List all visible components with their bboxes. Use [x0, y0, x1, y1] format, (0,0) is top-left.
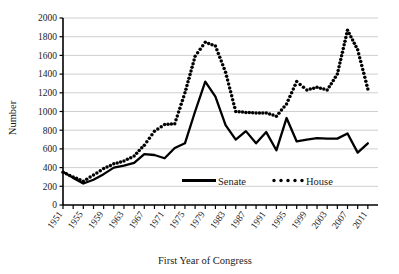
legend: Senate House	[182, 176, 333, 187]
y-tick-label: 2000	[38, 13, 57, 23]
legend-marker-house	[272, 179, 303, 182]
y-tick-label: 1800	[38, 32, 57, 42]
x-tick-label: 1987	[228, 209, 247, 231]
x-tick-label: 1959	[86, 209, 105, 231]
y-axis-tick-labels: 0200400600800100012001400160018002000	[38, 13, 57, 210]
y-tick-label: 800	[43, 126, 58, 136]
series-line-senate	[63, 82, 368, 184]
x-tick-label: 1967	[127, 209, 146, 231]
x-tick-label: 1983	[208, 209, 227, 231]
y-tick-label: 1600	[38, 51, 57, 61]
y-tick-label: 1400	[38, 69, 57, 79]
x-tick-label: 1995	[269, 209, 288, 231]
x-axis-tick-labels: 1951195519591963196719711975197919831987…	[46, 209, 370, 231]
y-tick-label: 200	[43, 182, 58, 192]
x-tick-label: 2007	[330, 209, 349, 231]
y-axis-title: Number	[7, 100, 18, 135]
x-tick-label: 1971	[147, 209, 166, 231]
x-tick-label: 1963	[107, 209, 126, 231]
line-chart: 0200400600800100012001400160018002000 19…	[0, 0, 399, 274]
x-tick-label: 1975	[167, 209, 186, 231]
y-tick-label: 400	[43, 163, 58, 173]
x-tick-label: 1979	[188, 209, 207, 231]
legend-label-senate: Senate	[218, 176, 246, 187]
x-tick-label: 1999	[289, 209, 308, 231]
x-tick-label: 2003	[310, 209, 329, 231]
x-axis-title: First Year of Congress	[158, 255, 252, 266]
y-tick-label: 1000	[38, 107, 57, 117]
y-tick-label: 0	[52, 200, 57, 210]
gridlines	[63, 18, 378, 186]
y-tick-label: 600	[43, 144, 58, 154]
legend-label-house: House	[306, 176, 333, 187]
x-tick-label: 1955	[66, 209, 85, 231]
x-tick-label: 2011	[351, 209, 370, 230]
x-tick-label: 1991	[249, 209, 268, 231]
chart-container: 0200400600800100012001400160018002000 19…	[0, 0, 399, 274]
y-tick-label: 1200	[38, 88, 57, 98]
series-dots-house	[61, 28, 369, 183]
x-tick-label: 1951	[46, 209, 65, 231]
